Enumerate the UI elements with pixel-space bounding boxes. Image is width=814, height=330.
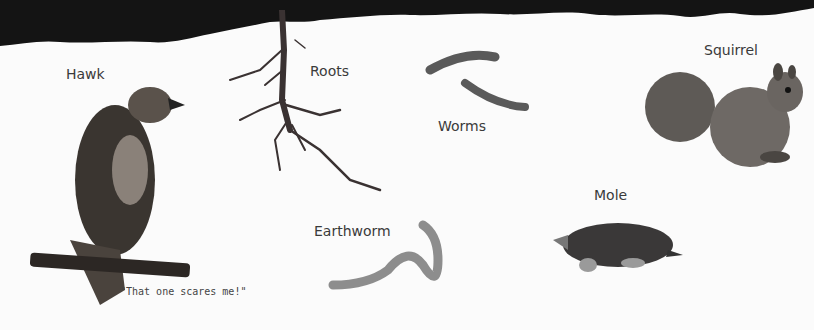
label-roots: Roots — [310, 63, 349, 79]
speech-caption: "That one scares me!" — [120, 286, 246, 297]
soil-band — [0, 0, 814, 60]
squirrel-illustration — [640, 62, 814, 182]
hawk-illustration — [30, 80, 190, 320]
label-hawk: Hawk — [66, 66, 105, 82]
label-squirrel: Squirrel — [704, 42, 758, 58]
label-mole: Mole — [594, 187, 627, 203]
label-worms: Worms — [438, 118, 486, 134]
mole-illustration — [548, 215, 688, 285]
label-earthworm: Earthworm — [314, 223, 391, 239]
roots-illustration — [220, 10, 400, 200]
worms-illustration — [425, 45, 535, 125]
